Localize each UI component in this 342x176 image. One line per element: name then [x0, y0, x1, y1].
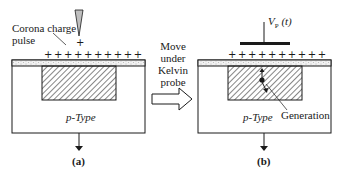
depletion-region-b — [228, 66, 302, 100]
transition-line2: under — [150, 52, 196, 64]
corona-label-line2: pulse — [12, 34, 35, 46]
substrate-label-b: p-Type — [243, 111, 273, 123]
caption-b: (b) — [257, 155, 270, 167]
move-arrow-icon — [152, 88, 192, 110]
generation-label: Generation — [281, 109, 330, 121]
ground-arrow-icon-a — [75, 146, 83, 151]
generation-point-icon — [259, 77, 264, 82]
ground-arrow-icon-b — [260, 146, 268, 151]
surface-charges-a: ++++++++++ — [44, 50, 144, 60]
transition-line1: Move — [150, 40, 196, 52]
substrate-label-a: p-Type — [66, 111, 96, 123]
transition-line3: Kelvin — [150, 64, 196, 76]
caption-a: (a) — [72, 155, 85, 167]
needle-charge: + — [76, 38, 86, 48]
kelvin-probe-plate — [240, 42, 290, 45]
depletion-region-a — [42, 66, 116, 100]
corona-label-line1: Corona charge — [12, 22, 76, 34]
probe-voltage-label: VP (t) — [268, 15, 292, 32]
corona-leader-line — [53, 33, 66, 45]
transition-line4: probe — [150, 76, 196, 88]
surface-charges-b: ++++++++++ — [228, 50, 328, 60]
